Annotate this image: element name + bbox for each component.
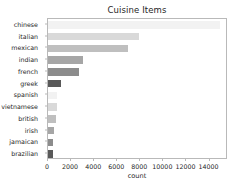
chart-figure: Cuisine Items chineseitalianmexicanindia… bbox=[0, 0, 243, 188]
bar-row bbox=[48, 31, 139, 43]
y-tick-mark bbox=[45, 106, 47, 107]
bar-spanish bbox=[48, 92, 57, 100]
x-tick-label-2000: 2000 bbox=[62, 163, 78, 170]
y-tick-label-greek: greek bbox=[0, 79, 38, 86]
y-tick-label-jamaican: jamaican bbox=[0, 138, 38, 145]
x-tick-mark bbox=[162, 159, 163, 161]
y-tick-mark bbox=[45, 94, 47, 95]
bar-row bbox=[48, 137, 53, 149]
bar-indian bbox=[48, 56, 83, 64]
y-tick-label-spanish: spanish bbox=[0, 91, 38, 98]
y-tick-mark bbox=[45, 117, 47, 118]
bar-british bbox=[48, 115, 56, 123]
y-tick-mark bbox=[45, 23, 47, 24]
y-tick-label-indian: indian bbox=[0, 56, 38, 63]
bar-vietnamese bbox=[48, 103, 57, 111]
y-tick-mark bbox=[45, 59, 47, 60]
bar-greek bbox=[48, 80, 61, 88]
bar-row bbox=[48, 90, 57, 102]
y-tick-label-brazilian: brazilian bbox=[0, 150, 38, 157]
bar-french bbox=[48, 68, 79, 76]
x-tick-mark bbox=[185, 159, 186, 161]
y-tick-label-british: british bbox=[0, 114, 38, 121]
x-tick-label-8000: 8000 bbox=[131, 163, 147, 170]
y-tick-mark bbox=[45, 141, 47, 142]
bar-italian bbox=[48, 33, 139, 41]
x-tick-mark bbox=[70, 159, 71, 161]
x-tick-mark bbox=[116, 159, 117, 161]
x-tick-mark bbox=[139, 159, 140, 161]
x-tick-label-10000: 10000 bbox=[152, 163, 172, 170]
bar-mexican bbox=[48, 45, 128, 53]
bar-irish bbox=[48, 127, 54, 135]
x-tick-mark bbox=[93, 159, 94, 161]
bar-row bbox=[48, 19, 220, 31]
y-tick-mark bbox=[45, 47, 47, 48]
y-tick-mark bbox=[45, 153, 47, 154]
y-tick-label-italian: italian bbox=[0, 32, 38, 39]
bar-chinese bbox=[48, 21, 220, 29]
x-axis: count 02000400060008000100001200014000 bbox=[47, 159, 227, 188]
x-tick-label-0: 0 bbox=[45, 163, 49, 170]
y-tick-label-mexican: mexican bbox=[0, 44, 38, 51]
x-tick-label-14000: 14000 bbox=[199, 163, 219, 170]
bar-row bbox=[48, 54, 83, 66]
x-tick-mark bbox=[47, 159, 48, 161]
bar-row bbox=[48, 125, 54, 137]
bar-brazilian bbox=[48, 150, 53, 158]
bar-row bbox=[48, 43, 128, 55]
y-tick-label-french: french bbox=[0, 67, 38, 74]
x-tick-label-6000: 6000 bbox=[108, 163, 124, 170]
y-tick-label-chinese: chinese bbox=[0, 20, 38, 27]
x-axis-title: count bbox=[47, 172, 227, 180]
y-tick-label-vietnamese: vietnamese bbox=[0, 103, 38, 110]
bar-row bbox=[48, 113, 56, 125]
y-tick-label-irish: irish bbox=[0, 126, 38, 133]
bar-row bbox=[48, 78, 61, 90]
bar-jamaican bbox=[48, 139, 53, 147]
y-tick-mark bbox=[45, 70, 47, 71]
chart-title: Cuisine Items bbox=[47, 5, 227, 15]
x-tick-label-12000: 12000 bbox=[175, 163, 195, 170]
bar-row bbox=[48, 66, 79, 78]
x-tick-mark bbox=[209, 159, 210, 161]
y-tick-mark bbox=[45, 82, 47, 83]
x-tick-label-4000: 4000 bbox=[85, 163, 101, 170]
y-axis-labels: chineseitalianmexicanindianfrenchgreeksp… bbox=[0, 18, 43, 159]
plot-area bbox=[47, 18, 227, 159]
y-tick-mark bbox=[45, 35, 47, 36]
y-tick-mark bbox=[45, 129, 47, 130]
bar-row bbox=[48, 101, 57, 113]
bar-row bbox=[48, 148, 53, 159]
